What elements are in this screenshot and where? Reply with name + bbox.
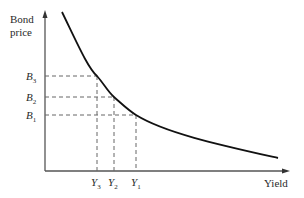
y-axis-title: Bond [10, 13, 34, 25]
y-axis-title-line2: price [10, 26, 32, 38]
x-tick-y3: Y3 [91, 176, 101, 191]
y-tick-b2: B2 [26, 91, 37, 106]
y-tick-b1: B1 [26, 109, 37, 124]
x-tick-y1: Y1 [131, 176, 141, 191]
x-tick-y2: Y2 [108, 176, 118, 191]
dashed-guides [45, 76, 136, 171]
x-axis-title: Yield [264, 177, 288, 189]
price-yield-curve [62, 12, 278, 158]
axes [45, 16, 283, 171]
y-tick-b3: B3 [26, 70, 37, 85]
x-axis-arrow-icon [282, 169, 290, 174]
y-axis-arrow-icon [43, 10, 48, 18]
price-yield-diagram: Bond price Yield B3 B2 B1 Y3 Y2 Y1 [0, 0, 304, 198]
